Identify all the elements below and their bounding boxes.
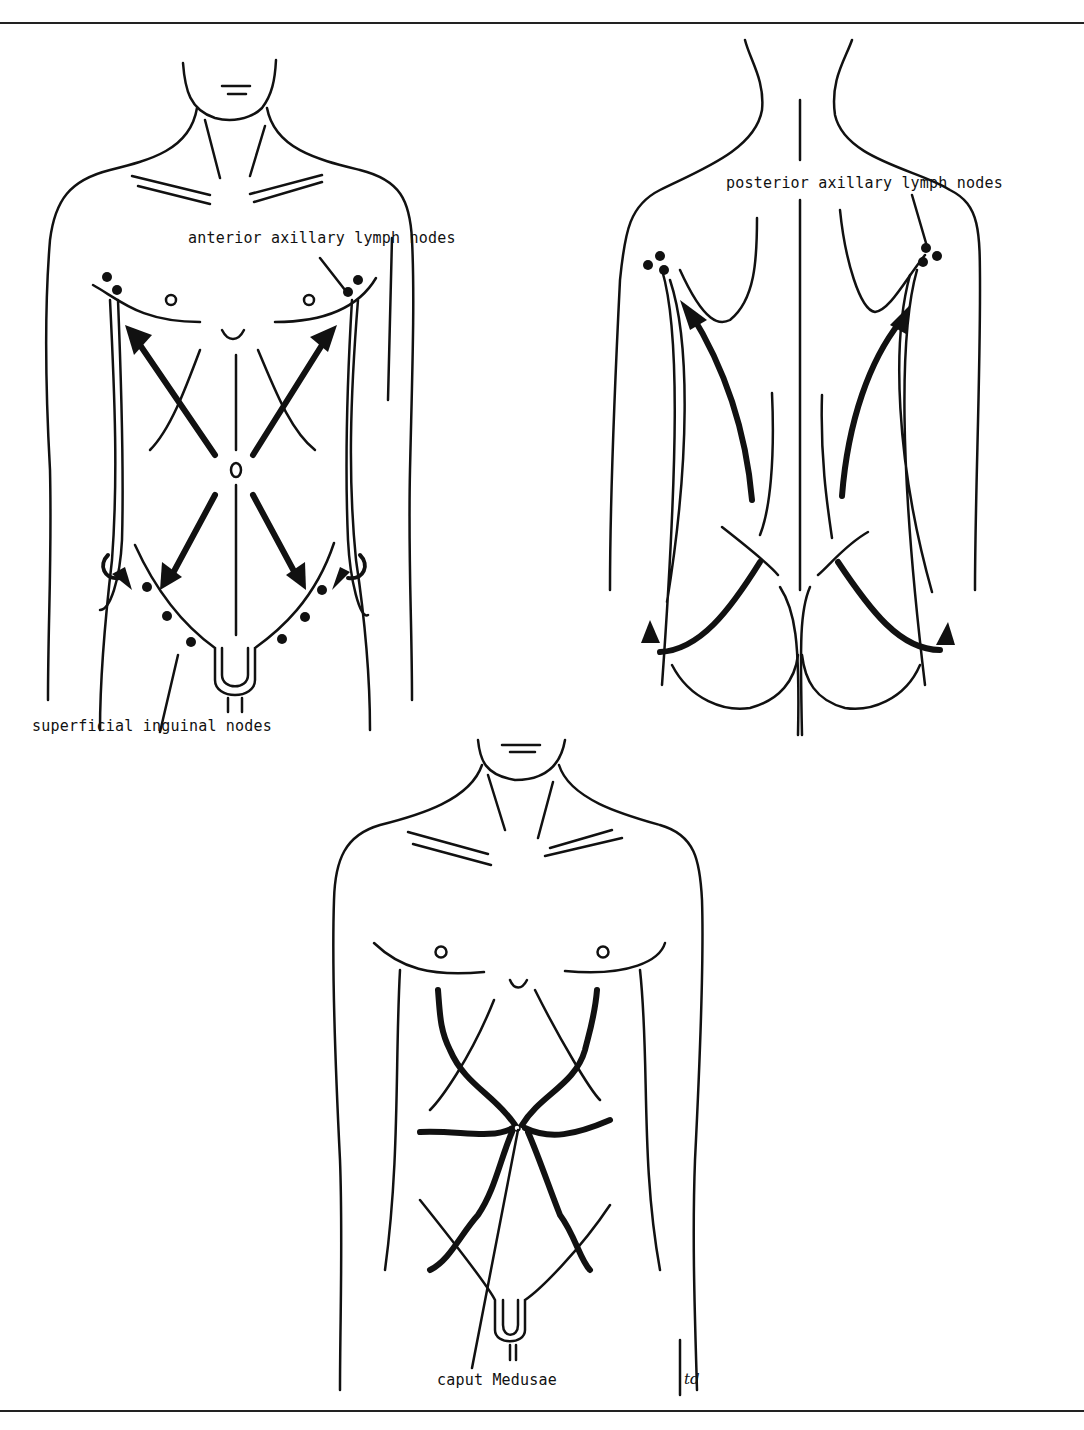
label-posterior-axillary-nodes: posterior axillary lymph nodes [726, 174, 1003, 192]
drainage-arrows [140, 345, 322, 575]
artist-signature: td [684, 1370, 700, 1388]
axillary-node-dots [102, 272, 363, 647]
label-caput-medusae: caput Medusae [437, 1371, 557, 1389]
anterior-torso-figure [46, 60, 413, 732]
label-superficial-inguinal-nodes: superficial inguinal nodes [32, 717, 272, 735]
posterior-torso-figure [610, 40, 980, 735]
venous-torso-figure [333, 740, 702, 1395]
anatomy-illustration [0, 0, 1084, 1430]
label-anterior-axillary-nodes: anterior axillary lymph nodes [188, 229, 456, 247]
